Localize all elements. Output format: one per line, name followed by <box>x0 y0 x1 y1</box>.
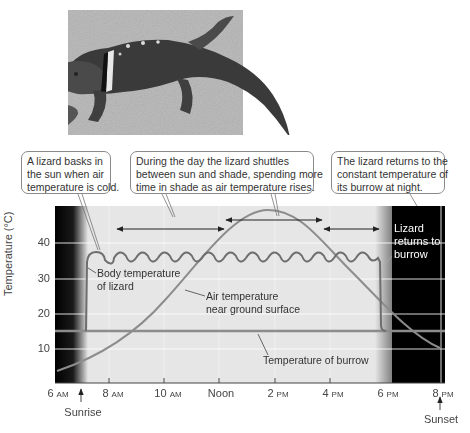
x-tick-8am: 8 AM <box>102 387 123 399</box>
x-tick-8pm: 8 PM <box>432 387 453 399</box>
y-tick-20: 20 <box>26 307 50 319</box>
y-axis-label: Temperature (°C) <box>2 212 14 296</box>
x-tick-noon: Noon <box>208 387 234 399</box>
body-temperature-label: Body temperature of lizard <box>97 267 180 292</box>
callout-basking: A lizard basks in the sun when air tempe… <box>21 151 111 194</box>
x-tick-10am: 10 AM <box>154 387 181 399</box>
x-tick-4pm: 4 PM <box>322 387 343 399</box>
y-tick-30: 30 <box>26 272 50 284</box>
callout-shuttling: During the day the lizard shuttles betwe… <box>130 151 314 194</box>
dawn-shading <box>55 206 88 383</box>
x-tick-6am: 6 AM <box>47 387 68 399</box>
air-temperature-label: Air temperature near ground surface <box>206 290 300 315</box>
lizard-image <box>68 10 310 135</box>
lizard-photo <box>68 10 310 135</box>
x-tick-6pm: 6 PM <box>377 387 398 399</box>
burrow-temperature-label: Temperature of burrow <box>263 354 369 367</box>
y-tick-40: 40 <box>26 236 50 248</box>
lizard-returns-label: Lizard returns to burrow <box>394 222 440 261</box>
sunrise-label: Sunrise <box>64 406 101 418</box>
x-tick-2pm: 2 PM <box>267 387 288 399</box>
callout-burrow: The lizard returns to the constant tempe… <box>331 151 445 194</box>
sunset-label: Sunset <box>424 413 458 425</box>
y-tick-10: 10 <box>26 342 50 354</box>
